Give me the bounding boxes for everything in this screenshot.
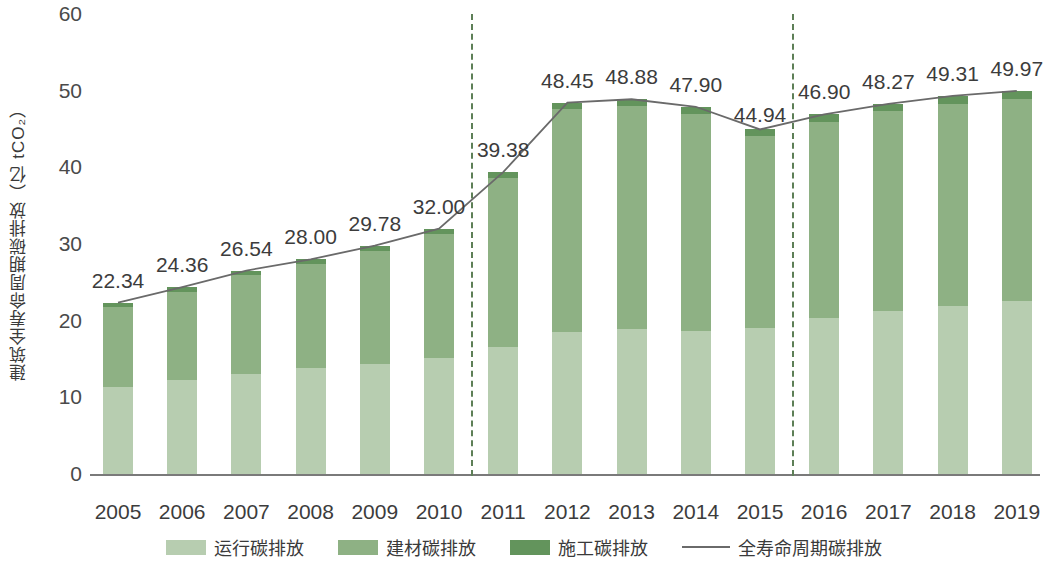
- data-label-2016: 46.90: [798, 80, 851, 104]
- legend-item-施工碳排放[interactable]: 施工碳排放: [510, 534, 648, 560]
- data-label-2014: 47.90: [670, 73, 723, 97]
- data-label-2007: 26.54: [220, 237, 273, 261]
- data-label-2006: 24.36: [156, 253, 209, 277]
- data-label-2012: 48.45: [541, 69, 594, 93]
- y-axis-tick-20: 20: [30, 309, 82, 333]
- data-label-2015: 44.94: [734, 103, 787, 127]
- legend-item-全寿命周期碳排放[interactable]: 全寿命周期碳排放: [682, 534, 882, 560]
- x-axis-tick-2008: 2008: [287, 500, 334, 524]
- data-label-2013: 48.88: [605, 65, 658, 89]
- x-axis-tick-2017: 2017: [865, 500, 912, 524]
- x-axis-tick-2019: 2019: [993, 500, 1040, 524]
- legend-item-label: 全寿命周期碳排放: [738, 534, 882, 560]
- x-axis-tick-2016: 2016: [801, 500, 848, 524]
- x-axis-tick-2018: 2018: [929, 500, 976, 524]
- y-axis-tick-10: 10: [30, 385, 82, 409]
- x-axis-tick-2009: 2009: [351, 500, 398, 524]
- legend-swatch-icon: [338, 540, 378, 555]
- plot-area: 22.3424.3626.5428.0029.7832.0039.3848.45…: [90, 14, 1040, 476]
- data-label-2005: 22.34: [92, 269, 145, 293]
- y-axis-tick-60: 60: [30, 2, 82, 26]
- y-axis-title-text: 建筑全寿命周期碳排放（亿 tCO₂）: [6, 100, 31, 381]
- legend-item-label: 施工碳排放: [558, 534, 648, 560]
- legend-item-运行碳排放[interactable]: 运行碳排放: [166, 534, 304, 560]
- legend-item-建材碳排放[interactable]: 建材碳排放: [338, 534, 476, 560]
- x-axis-tick-2013: 2013: [608, 500, 655, 524]
- x-axis-tick-2010: 2010: [416, 500, 463, 524]
- total-line-path: [118, 91, 1017, 303]
- data-label-2010: 32.00: [413, 195, 466, 219]
- chart-legend: 运行碳排放建材碳排放施工碳排放全寿命周期碳排放: [0, 532, 1048, 562]
- legend-swatch-icon: [166, 540, 206, 555]
- legend-item-label: 建材碳排放: [386, 534, 476, 560]
- y-axis-tick-0: 0: [30, 462, 82, 486]
- chart-figure: 建筑全寿命周期碳排放（亿 tCO₂） 0102030405060 22.3424…: [0, 0, 1048, 565]
- legend-item-label: 运行碳排放: [214, 534, 304, 560]
- x-axis-tick-2014: 2014: [672, 500, 719, 524]
- x-axis-tick-2012: 2012: [544, 500, 591, 524]
- x-axis-tick-2011: 2011: [481, 500, 526, 524]
- data-label-2017: 48.27: [862, 70, 915, 94]
- data-label-2018: 49.31: [926, 62, 979, 86]
- data-label-2019: 49.97: [991, 57, 1044, 81]
- legend-line-icon: [682, 546, 730, 548]
- y-axis-tick-30: 30: [30, 232, 82, 256]
- x-axis-tick-2005: 2005: [95, 500, 142, 524]
- legend-swatch-icon: [510, 540, 550, 555]
- data-label-2011: 39.38: [477, 138, 530, 162]
- x-axis-tick-2007: 2007: [223, 500, 270, 524]
- y-axis-tick-50: 50: [30, 79, 82, 103]
- data-label-2008: 28.00: [284, 225, 337, 249]
- x-axis-tick-2006: 2006: [159, 500, 206, 524]
- y-axis-tick-40: 40: [30, 155, 82, 179]
- x-axis-tick-2015: 2015: [737, 500, 784, 524]
- data-label-2009: 29.78: [349, 212, 402, 236]
